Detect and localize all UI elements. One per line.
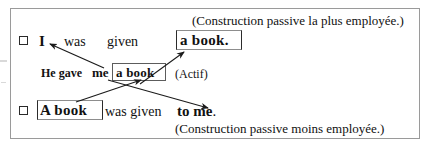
scan-speckle	[0, 60, 7, 62]
annotation-passive-primary: (Construction passive la plus employée.)	[192, 14, 404, 27]
checkbox-passive-primary[interactable]	[19, 36, 28, 45]
active-direct-object: a book	[116, 66, 154, 79]
passive-primary-participle: given	[107, 35, 138, 49]
annotation-active: (Actif)	[175, 68, 208, 80]
annotation-passive-secondary: (Construction passive moins employée.)	[175, 122, 384, 135]
passive-secondary-complement-text: to me	[177, 103, 212, 119]
active-indirect-object: me	[92, 66, 109, 79]
passive-secondary-subject: A book	[40, 103, 87, 118]
active-lead: He gave	[41, 67, 82, 79]
passive-primary-aux: was	[64, 35, 86, 49]
passive-secondary-complement: to me.	[177, 104, 216, 119]
passive-secondary-aux-participle: was given	[105, 105, 161, 119]
grammar-diagram-page: I was given a book. (Construction passiv…	[0, 0, 432, 151]
checkbox-passive-secondary[interactable]	[19, 106, 28, 115]
passive-primary-subject: I	[39, 34, 45, 49]
scan-speckle	[1, 82, 6, 83]
passive-secondary-period: .	[212, 103, 216, 119]
passive-primary-object: a book.	[180, 33, 229, 48]
